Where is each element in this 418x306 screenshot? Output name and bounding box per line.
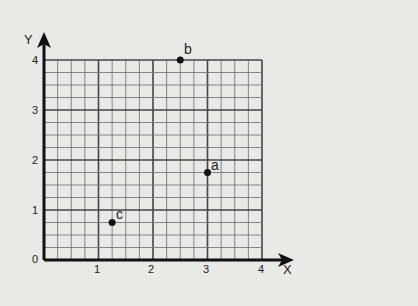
coordinate-grid-chart xyxy=(0,0,418,306)
y-tick-1: 1 xyxy=(32,204,38,216)
point-c-label: c xyxy=(116,206,123,222)
point-a-label: a xyxy=(211,157,219,173)
y-axis-label: Y xyxy=(24,32,33,47)
y-tick-3: 3 xyxy=(32,104,38,116)
x-tick-3: 3 xyxy=(203,263,209,275)
point-b-marker xyxy=(177,57,184,64)
x-axis-label: X xyxy=(283,262,292,277)
point-b-label: b xyxy=(184,41,192,57)
grid-lines xyxy=(44,60,262,260)
y-tick-2: 2 xyxy=(32,154,38,166)
origin-label: 0 xyxy=(32,253,38,265)
data-points xyxy=(109,57,211,227)
x-tick-1: 1 xyxy=(94,263,100,275)
axes xyxy=(37,32,294,267)
y-tick-4: 4 xyxy=(32,54,38,66)
x-tick-4: 4 xyxy=(258,263,264,275)
x-tick-2: 2 xyxy=(148,263,154,275)
point-a-marker xyxy=(204,169,211,176)
point-c-marker xyxy=(109,219,116,226)
